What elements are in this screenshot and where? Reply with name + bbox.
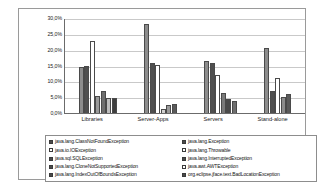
- y-axis-tick: 25,0%: [48, 32, 62, 37]
- plot-region: 0,0%5,0%10,0%15,0%20,0%25,0%30,0% Librar…: [37, 19, 307, 131]
- bar: [84, 66, 89, 114]
- bar: [95, 96, 100, 113]
- bar: [210, 63, 215, 113]
- legend-swatch-icon: [182, 157, 186, 161]
- legend-label: java.awt.AWTException: [188, 164, 238, 169]
- legend-item[interactable]: java.lang.Exception: [182, 138, 313, 146]
- bar-group: [204, 19, 237, 113]
- legend-label: java.lang.Throwable: [188, 148, 230, 153]
- x-axis-tick: Servers: [203, 116, 222, 128]
- chart-frame: 0,0%5,0%10,0%15,0%20,0%25,0%30,0% Librar…: [18, 8, 306, 180]
- legend-label: java.lang.ClassNotFoundException: [55, 139, 129, 144]
- legend-item[interactable]: java.awt.AWTException: [182, 163, 313, 171]
- bar: [286, 94, 291, 113]
- plot-area: [64, 19, 305, 114]
- bar: [79, 67, 84, 113]
- x-axis-tick: Stand-alone: [257, 116, 287, 128]
- legend-swatch-icon: [182, 173, 186, 177]
- legend-swatch-icon: [49, 148, 53, 152]
- legend-item[interactable]: java.lang.CloneNotSupportedException: [49, 163, 182, 171]
- legend-label: java.lang.InterruptedException: [188, 156, 252, 161]
- chart-screenshot: 0,0%5,0%10,0%15,0%20,0%25,0%30,0% Librar…: [0, 0, 320, 193]
- legend-label: java.io.IOException: [55, 148, 96, 153]
- bar: [161, 109, 166, 113]
- bar-groups: [65, 19, 305, 113]
- bar: [155, 65, 160, 113]
- legend-swatch-icon: [182, 148, 186, 152]
- y-axis-tick: 0,0%: [50, 111, 62, 116]
- y-axis-tick: 5,0%: [50, 95, 62, 100]
- bar: [281, 97, 286, 113]
- x-axis: LibrariesServer-AppsServersStand-alone: [64, 116, 305, 128]
- bar: [264, 48, 269, 113]
- y-axis-tick: 10,0%: [48, 79, 62, 84]
- y-axis-tick: 30,0%: [48, 16, 62, 21]
- bar: [150, 63, 155, 113]
- legend-item[interactable]: java.sql.SQLException: [49, 155, 182, 163]
- legend-item[interactable]: org.eclipse.jface.text.BadLocationExcept…: [182, 171, 313, 179]
- bar: [226, 99, 231, 113]
- bar: [144, 24, 149, 113]
- legend-item[interactable]: java.lang.Throwable: [182, 146, 313, 154]
- x-axis-tick: Server-Apps: [138, 116, 169, 128]
- bar: [204, 61, 209, 113]
- legend-swatch-icon: [182, 165, 186, 169]
- y-axis-tick: 15,0%: [48, 64, 62, 69]
- legend-label: java.lang.Exception: [188, 139, 229, 144]
- legend-swatch-icon: [49, 165, 53, 169]
- bar: [270, 91, 275, 113]
- bar: [232, 101, 237, 113]
- legend-column-left: java.lang.ClassNotFoundExceptionjava.io.…: [49, 138, 182, 179]
- bar-group: [144, 19, 177, 113]
- bar: [90, 41, 95, 113]
- bar: [101, 91, 106, 113]
- bar: [215, 75, 220, 113]
- legend: java.lang.ClassNotFoundExceptionjava.io.…: [45, 135, 317, 182]
- legend-label: java.sql.SQLException: [55, 156, 103, 161]
- legend-item[interactable]: java.lang.InterruptedException: [182, 155, 313, 163]
- legend-item[interactable]: java.lang.IndexOutOfBoundsException: [49, 171, 182, 179]
- bar: [221, 93, 226, 113]
- bar: [112, 98, 117, 113]
- legend-label: java.lang.IndexOutOfBoundsException: [55, 172, 137, 177]
- legend-swatch-icon: [49, 157, 53, 161]
- y-axis: 0,0%5,0%10,0%15,0%20,0%25,0%30,0%: [37, 19, 63, 114]
- legend-label: org.eclipse.jface.text.BadLocationExcept…: [188, 172, 280, 177]
- legend-label: java.lang.CloneNotSupportedException: [55, 164, 138, 169]
- legend-swatch-icon: [49, 173, 53, 177]
- y-axis-tick: 20,0%: [48, 48, 62, 53]
- bar: [275, 78, 280, 113]
- bar: [106, 98, 111, 113]
- bar-group: [264, 19, 292, 113]
- bar: [166, 105, 171, 113]
- x-axis-tick: Libraries: [81, 116, 102, 128]
- bar-group: [79, 19, 118, 113]
- legend-item[interactable]: java.lang.ClassNotFoundException: [49, 138, 182, 146]
- legend-column-right: java.lang.Exceptionjava.lang.Throwableja…: [182, 138, 313, 179]
- bar: [172, 104, 177, 113]
- legend-swatch-icon: [49, 140, 53, 144]
- legend-item[interactable]: java.io.IOException: [49, 146, 182, 154]
- legend-swatch-icon: [182, 140, 186, 144]
